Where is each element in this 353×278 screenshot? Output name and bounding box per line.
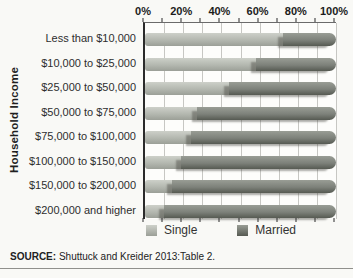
bar-segment-married (172, 180, 336, 193)
bar-segment-single (145, 82, 229, 95)
category-label: $75,000 to $100,000 (35, 124, 136, 149)
bar-segment-single (145, 107, 197, 120)
bar-row (145, 33, 336, 46)
source-text: Shuttuck and Kreider 2013:Table 2. (56, 251, 215, 262)
bar-row (145, 82, 336, 95)
x-axis-tick-label: 80% (285, 5, 307, 17)
axis-tick (238, 218, 239, 222)
source-label: SOURCE: (10, 251, 56, 262)
category-label: Less than $10,000 (45, 26, 136, 51)
axis-tick (143, 218, 144, 222)
axis-tick (200, 218, 201, 222)
gridline (336, 23, 337, 219)
x-axis-tick-label: 100% (320, 5, 348, 17)
bar-row (145, 180, 336, 193)
category-label: $200,000 and higher (35, 198, 136, 223)
bar-segment-single (145, 58, 256, 71)
bar-segment-single (145, 131, 191, 144)
x-axis-tick-label: 60% (247, 5, 269, 17)
bar-segment-married (256, 58, 336, 71)
axis-tick (219, 218, 220, 222)
x-axis-tick-labels: 0%20%40%60%80%100% (143, 5, 334, 18)
x-axis-tick-label: 20% (170, 5, 192, 17)
legend-label: Single (164, 223, 197, 237)
category-labels: Less than $10,000$10,000 to $25,000$25,0… (0, 22, 136, 218)
bar-segment-single (145, 205, 164, 218)
legend-item-married: Married (237, 223, 296, 237)
bar-segment-single (145, 180, 172, 193)
axis-tick (181, 218, 182, 222)
bar-segment-married (283, 33, 336, 46)
bar-segment-married (164, 205, 336, 218)
category-label: $100,000 to $150,000 (29, 149, 136, 174)
bar-row (145, 131, 336, 144)
category-label: $150,000 to $200,000 (29, 173, 136, 198)
legend-item-single: Single (146, 223, 197, 237)
axis-tick (162, 218, 163, 222)
bar-segment-married (229, 82, 336, 95)
bar-row (145, 107, 336, 120)
bar-row (145, 205, 336, 218)
bar-segment-married (197, 107, 336, 120)
x-axis-tick-label: 0% (135, 5, 151, 17)
axis-tick (334, 218, 335, 222)
axis-tick (276, 218, 277, 222)
axis-tick (295, 218, 296, 222)
figure: Household Income 0%20%40%60%80%100% Less… (0, 0, 353, 278)
category-label: $25,000 to $50,000 (41, 75, 136, 100)
legend-label: Married (255, 223, 296, 237)
plot-area (143, 22, 336, 219)
bar-segment-married (181, 156, 336, 169)
bar-segment-married (191, 131, 336, 144)
legend-swatch (146, 225, 157, 236)
legend-swatch (237, 225, 248, 236)
bar-segment-single (145, 156, 181, 169)
category-label: $50,000 to $75,000 (41, 100, 136, 125)
x-axis-tick-label: 40% (208, 5, 230, 17)
axis-ticks-bottom (143, 218, 334, 222)
axis-tick (314, 218, 315, 222)
bottom-rule (0, 268, 353, 269)
legend: SingleMarried (146, 223, 296, 237)
source-note: SOURCE: Shuttuck and Kreider 2013:Table … (10, 251, 215, 262)
bar-row (145, 156, 336, 169)
bar-row (145, 58, 336, 71)
axis-tick (257, 218, 258, 222)
category-label: $10,000 to $25,000 (41, 51, 136, 76)
bar-segment-single (145, 33, 283, 46)
